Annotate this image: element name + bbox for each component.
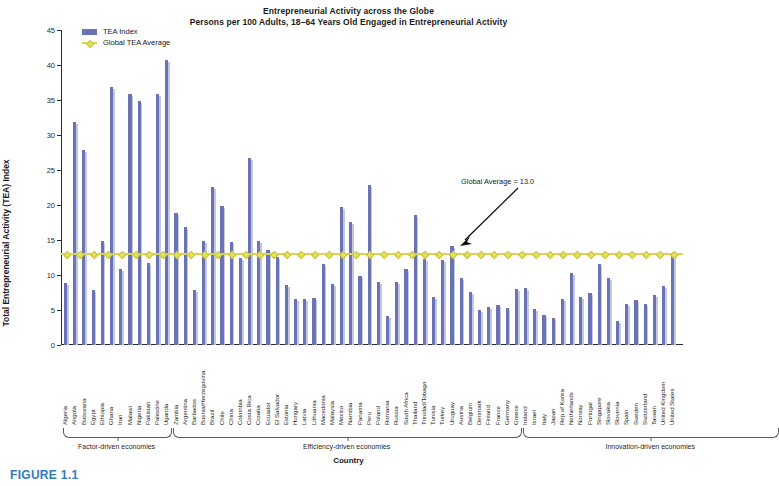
bar-shadow [610, 280, 612, 345]
bar-shadow [490, 309, 492, 345]
x-tick-label: Namibia [347, 403, 353, 425]
x-tick-label: Spain [623, 409, 629, 425]
x-tick-label: Thailand [412, 402, 418, 425]
bar-shadow [389, 318, 391, 345]
bar-shadow [426, 261, 428, 345]
x-tick-label: France [495, 406, 501, 425]
group-brace [63, 428, 172, 438]
x-axis-country-labels: AlgeriaAngolaBotswanaEgyptEthiopiaGhanaI… [61, 347, 683, 425]
line-diamond-icon [82, 40, 97, 46]
x-tick-label: Uganda [163, 404, 169, 425]
x-tick-label: Lithuania [311, 400, 317, 425]
x-tick-label: Malawi [127, 406, 133, 425]
bar-shadow [306, 301, 308, 345]
bar-shadow [270, 252, 272, 345]
x-tick-label: Estonia [283, 405, 289, 425]
x-tick-label: China [228, 409, 234, 425]
bar-shadow [435, 299, 437, 345]
x-tick-label: Poland [375, 406, 381, 425]
x-tick-label: Brazil [209, 410, 215, 425]
group-brace [173, 428, 521, 438]
x-tick-label: Nigeria [136, 406, 142, 425]
x-tick-label: Ghana [108, 407, 114, 425]
x-tick-label: Mexico [338, 406, 344, 425]
bar-shadow [297, 301, 299, 345]
x-tick-label: Israel [531, 410, 537, 425]
bar-shadow [196, 292, 198, 345]
bar-shadow [316, 300, 318, 345]
bar-shadow [76, 124, 78, 345]
bar-shadow [601, 266, 603, 345]
x-tick-label: United Kingdom [660, 382, 666, 425]
x-tick-label: Turkey [439, 407, 445, 425]
y-tick-mark [57, 345, 61, 346]
chart-titles: Entrepreneurial Activity across the Glob… [0, 6, 697, 28]
bar-shadow [67, 285, 69, 345]
bar-shadow [647, 306, 649, 345]
x-tick-label: Croatia [255, 405, 261, 425]
x-tick-label: Denmark [476, 400, 482, 425]
x-tick-label: Botswana [81, 398, 87, 425]
legend-item-tea-index: TEA Index [82, 26, 170, 37]
x-tick-label: Switzerland [642, 394, 648, 426]
bar-shadow [555, 320, 557, 345]
x-tick-label: Egypt [90, 409, 96, 425]
bar-shadow [159, 96, 161, 345]
bar-series [61, 30, 683, 345]
group-brace-tick [117, 437, 118, 441]
bar-shadow [371, 187, 373, 345]
bar-shadow [564, 301, 566, 345]
x-tick-label: Bosnia/Herzegovina [200, 370, 206, 425]
x-tick-label: Taiwan [651, 406, 657, 425]
x-tick-label: Colombia [237, 399, 243, 425]
x-tick-label: Portugal [587, 402, 593, 425]
bar-shadow [481, 312, 483, 345]
x-tick-label: South Africa [403, 392, 409, 425]
x-tick-label: Netherlands [568, 392, 574, 425]
legend-label-global-average: Global TEA Average [103, 38, 170, 47]
bar-shadow [463, 280, 465, 345]
bar-shadow [573, 275, 575, 345]
bar-shadow [444, 262, 446, 345]
bar-shadow [85, 152, 87, 345]
bar-shadow [665, 288, 667, 346]
x-tick-label: Slovenia [614, 402, 620, 425]
x-tick-label: Tunisia [430, 406, 436, 425]
legend: TEA Index Global TEA Average [82, 26, 170, 48]
x-tick-label: Singapore [596, 397, 602, 425]
global-average-annotation: Global Average = 13.0 [461, 177, 534, 186]
bar-shadow [242, 260, 244, 346]
x-tick-label: Ireland [522, 406, 528, 425]
x-tick-label: Norway [577, 404, 583, 425]
bar-shadow [113, 89, 115, 345]
x-tick-label: Malaysia [329, 401, 335, 425]
x-tick-label: Italy [541, 414, 547, 425]
x-tick-label: Peru [366, 412, 372, 425]
bar-shadow [187, 229, 189, 345]
x-tick-label: Panama [357, 402, 363, 425]
chart-title: Entrepreneurial Activity across the Glob… [0, 6, 697, 17]
x-tick-label: Belgium [467, 403, 473, 425]
bar-swatch-icon [82, 29, 97, 35]
group-brace-tick [651, 437, 652, 441]
bar-shadow [408, 271, 410, 345]
bar-shadow [168, 62, 170, 345]
group-brace [523, 428, 779, 438]
bar-shadow [334, 286, 336, 345]
bar-shadow [214, 189, 216, 345]
bar-shadow [638, 302, 640, 346]
bar-shadow [352, 224, 354, 345]
x-tick-label: Sweden [633, 403, 639, 425]
bar-shadow [380, 284, 382, 345]
bar-shadow [132, 96, 134, 345]
x-tick-label: Barbados [191, 399, 197, 425]
x-tick-label: Japan [550, 408, 556, 425]
figure-caption: FIGURE 1.1 [10, 468, 78, 482]
group-label-efficiency: Efficiency-driven economies [173, 443, 519, 450]
x-tick-label: Rep of Korea [559, 389, 565, 425]
x-tick-label: Uruguay [449, 402, 455, 425]
x-tick-label: United States [669, 388, 675, 425]
bar-shadow [619, 323, 621, 345]
bar-shadow [224, 208, 226, 345]
bar-shadow [546, 317, 548, 345]
